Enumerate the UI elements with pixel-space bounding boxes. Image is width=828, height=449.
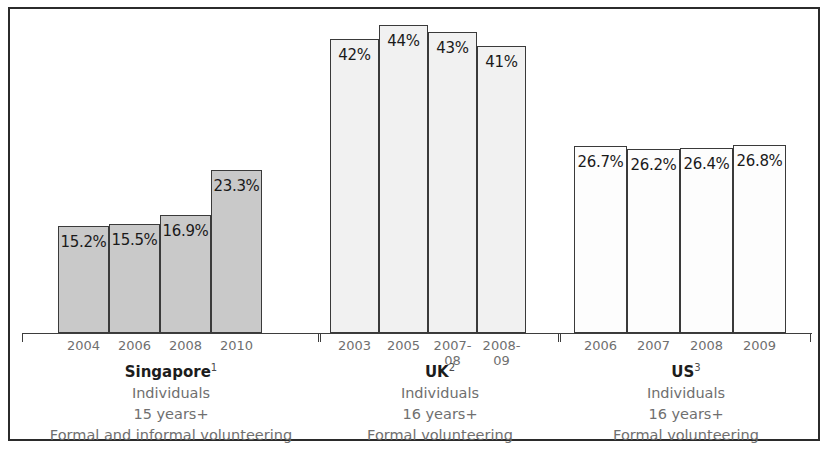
group-footnote-marker: 3 — [694, 362, 700, 373]
bar-value-label: 26.7% — [575, 153, 626, 171]
bar-value-label: 41% — [478, 53, 525, 71]
x-tick-label-singapore-2006: 2006 — [109, 338, 160, 353]
x-tick-label-us-2009: 2009 — [733, 338, 786, 353]
group-name-singapore: Singapore1 — [22, 357, 320, 383]
bar-value-label: 43% — [429, 39, 476, 57]
x-tick-label-us-2008: 2008 — [680, 338, 733, 353]
x-axis-line-singapore — [22, 333, 320, 334]
caption-line-1: Individuals — [320, 383, 560, 404]
bar-singapore-2010: 23.3% — [211, 170, 262, 333]
group-footnote-marker: 2 — [449, 362, 455, 373]
axis-tick-us-start — [560, 333, 561, 342]
axis-tick-us-end — [810, 333, 811, 342]
bar-value-label: 15.2% — [59, 233, 108, 251]
axis-tick-uk-end — [558, 333, 559, 342]
bar-uk-2003: 42% — [330, 39, 379, 333]
x-axis-line-us — [560, 333, 812, 334]
group-footnote-marker: 1 — [211, 362, 217, 373]
axis-tick-singapore-end — [318, 333, 319, 342]
caption-line-3: Formal volunteering — [320, 425, 560, 446]
bar-uk-2008-09: 41% — [477, 46, 526, 333]
bar-value-label: 44% — [380, 32, 427, 50]
x-tick-label-singapore-2004: 2004 — [58, 338, 109, 353]
x-tick-label-uk-2005: 2005 — [379, 338, 428, 353]
caption-line-1: Individuals — [560, 383, 812, 404]
bar-value-label: 26.4% — [681, 155, 732, 173]
volunteering-rate-bar-chart: 15.2%15.5%16.9%23.3%2004200620082010Sing… — [0, 0, 828, 449]
caption-line-2: 16 years+ — [320, 404, 560, 425]
x-tick-label-us-2006: 2006 — [574, 338, 627, 353]
group-name-us: US3 — [560, 357, 812, 383]
x-axis-line-uk — [320, 333, 560, 334]
bar-value-label: 15.5% — [110, 231, 159, 249]
group-caption-uk: UK2Individuals16 years+Formal volunteeri… — [320, 357, 560, 446]
bar-us-2006: 26.7% — [574, 146, 627, 333]
bar-value-label: 23.3% — [212, 177, 261, 195]
bar-singapore-2006: 15.5% — [109, 224, 160, 333]
x-tick-label-singapore-2010: 2010 — [211, 338, 262, 353]
x-tick-label-us-2007: 2007 — [627, 338, 680, 353]
bar-uk-2007-08: 43% — [428, 32, 477, 333]
bar-value-label: 16.9% — [161, 222, 210, 240]
caption-line-3: Formal volunteering — [560, 425, 812, 446]
plot-area: 15.2%15.5%16.9%23.3%2004200620082010Sing… — [0, 0, 828, 449]
caption-line-2: 15 years+ — [22, 404, 320, 425]
x-tick-label-uk-2003: 2003 — [330, 338, 379, 353]
axis-tick-singapore-start — [22, 333, 23, 342]
bar-us-2008: 26.4% — [680, 148, 733, 333]
bar-value-label: 26.2% — [628, 156, 679, 174]
group-caption-us: US3Individuals16 years+Formal volunteeri… — [560, 357, 812, 446]
bar-value-label: 42% — [331, 46, 378, 64]
bar-us-2007: 26.2% — [627, 149, 680, 333]
group-caption-singapore: Singapore1Individuals15 years+Formal and… — [22, 357, 320, 446]
bar-singapore-2004: 15.2% — [58, 226, 109, 333]
group-name-uk: UK2 — [320, 357, 560, 383]
bar-value-label: 26.8% — [734, 152, 785, 170]
caption-line-1: Individuals — [22, 383, 320, 404]
axis-tick-uk-start — [320, 333, 321, 342]
caption-line-2: 16 years+ — [560, 404, 812, 425]
bar-us-2009: 26.8% — [733, 145, 786, 333]
bar-singapore-2008: 16.9% — [160, 215, 211, 333]
caption-line-3: Formal and informal volunteering — [22, 425, 320, 446]
bar-uk-2005: 44% — [379, 25, 428, 333]
x-tick-label-singapore-2008: 2008 — [160, 338, 211, 353]
